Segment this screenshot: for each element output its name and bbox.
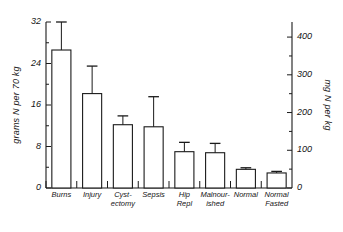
left-tick-label: 8	[19, 141, 41, 151]
left-tick-label: 32	[19, 16, 41, 26]
right-tick-label: 200	[297, 107, 323, 117]
right-tick-label: 400	[297, 31, 323, 41]
category-label: Sepsis	[138, 191, 169, 200]
right-tick-label: 300	[297, 69, 323, 79]
category-label: Malnour- ished	[200, 191, 231, 208]
category-label: Normal Fasted	[261, 191, 292, 208]
left-axis-ticks	[46, 22, 51, 188]
right-axis-ticks	[287, 37, 292, 188]
left-tick-label: 24	[19, 58, 41, 68]
category-label: Hip Repl	[169, 191, 200, 208]
right-tick-label: 100	[297, 144, 323, 154]
category-label: Normal	[231, 191, 262, 200]
left-tick-label: 0	[19, 182, 41, 192]
chart-figure: grams N per 70 kg mg N per kg 08162432 0…	[0, 0, 343, 232]
category-label: Injury	[77, 191, 108, 200]
left-tick-label: 16	[19, 99, 41, 109]
right-tick-label: 0	[297, 182, 323, 192]
category-label: Cyst- ectomy	[108, 191, 139, 208]
y-axis-label-right: mg N per kg	[323, 45, 333, 165]
category-label: Burns	[46, 191, 77, 200]
